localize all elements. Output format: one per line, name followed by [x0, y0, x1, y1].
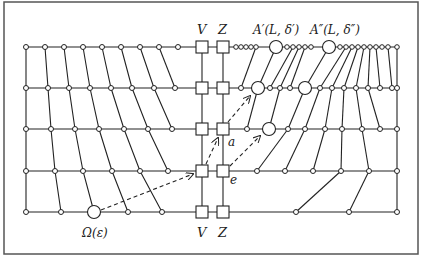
dashed-arrows [101, 96, 260, 210]
label-v-top: V [197, 22, 208, 37]
label-a-prime: A′(L, δ′) [252, 23, 300, 37]
label-e: e [230, 173, 237, 187]
node-omega [88, 206, 101, 219]
mesh-diagram: V Z A′(L, δ′) A″(L, δ″) a e Ω(ε) V Z [0, 0, 426, 258]
diagram-frame: V Z A′(L, δ′) A″(L, δ″) a e Ω(ε) V Z [0, 0, 426, 258]
label-a-double-prime: A″(L, δ″) [309, 23, 360, 37]
node-row3 [263, 123, 276, 136]
right-mesh [233, 47, 397, 212]
label-a: a [228, 135, 235, 149]
node-a-prime [270, 41, 283, 54]
arrow-v-to-a [206, 138, 218, 164]
label-omega: Ω(ε) [81, 226, 108, 240]
node-row2-a [252, 82, 265, 95]
figure-border [4, 2, 418, 254]
arrow-a-to-circle [228, 96, 250, 122]
label-z-top: Z [217, 22, 228, 37]
node-a-double-prime [323, 41, 336, 54]
label-z-bottom: Z [217, 225, 228, 240]
node-row2-b [299, 82, 312, 95]
label-v-bottom: V [197, 225, 208, 240]
